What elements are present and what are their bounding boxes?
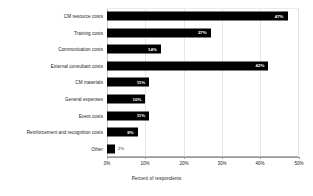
bar-chart: CM resource costs 47% Training costs 27%… — [0, 0, 313, 196]
bar-wrapper: 47% — [107, 12, 288, 21]
bar-row: Reinforcement and recognition costs 8% — [0, 124, 313, 141]
bar-value-label: 10% — [133, 97, 142, 102]
category-label: Event costs — [79, 113, 103, 118]
bar-value-label: 11% — [137, 80, 146, 85]
bar-value-label: 27% — [198, 30, 207, 35]
bar: 11% — [107, 78, 149, 87]
bar-value-label: 11% — [137, 113, 146, 118]
category-label: General expenses — [65, 97, 103, 102]
bar-wrapper: 14% — [107, 45, 161, 54]
bar-wrapper: 42% — [107, 61, 268, 70]
category-label: External consultant costs — [51, 63, 103, 68]
bar: 27% — [107, 28, 211, 37]
bar: 14% — [107, 45, 161, 54]
bar-rows: CM resource costs 47% Training costs 27%… — [0, 8, 313, 157]
x-axis-title: Percent of respondents — [0, 176, 313, 181]
x-tick-mark — [145, 157, 146, 159]
category-label: CM materials — [75, 80, 103, 85]
category-label: Communication costs — [58, 47, 103, 52]
bar: 10% — [107, 95, 145, 104]
bar-row: Training costs 27% — [0, 25, 313, 42]
x-tick-mark — [222, 157, 223, 159]
bar-row: Communication costs 14% — [0, 41, 313, 58]
x-tick-label: 50% — [294, 161, 303, 166]
bar-value-label: 42% — [256, 63, 265, 68]
bar-wrapper: 2% — [107, 144, 115, 153]
x-tick-mark — [260, 157, 261, 159]
bar-wrapper: 8% — [107, 128, 138, 137]
x-tick-mark — [299, 157, 300, 159]
category-label: Other — [91, 146, 103, 151]
bar-wrapper: 10% — [107, 95, 145, 104]
bar: 42% — [107, 61, 268, 70]
bar-wrapper: 11% — [107, 111, 149, 120]
bar-value-label: 2% — [118, 146, 124, 151]
x-tick-label: 40% — [255, 161, 264, 166]
x-tick-label: 20% — [179, 161, 188, 166]
bar-row: Other 2% — [0, 140, 313, 157]
x-tick-label: 30% — [217, 161, 226, 166]
x-axis-line — [107, 157, 299, 158]
bar-value-label: 47% — [275, 14, 284, 19]
bar-row: External consultant costs 42% — [0, 58, 313, 75]
bar: 11% — [107, 111, 149, 120]
category-label: Training costs — [74, 30, 103, 35]
bar-value-label: 8% — [127, 130, 133, 135]
x-tick-label: 0% — [104, 161, 111, 166]
x-tick-mark — [107, 157, 108, 159]
x-tick-mark — [184, 157, 185, 159]
category-label: Reinforcement and recognition costs — [27, 130, 103, 135]
bar-row: General expenses 10% — [0, 91, 313, 108]
bar-value-label: 14% — [148, 47, 157, 52]
x-tick-label: 10% — [140, 161, 149, 166]
bar-row: CM materials 11% — [0, 74, 313, 91]
bar-wrapper: 27% — [107, 28, 211, 37]
bar-wrapper: 11% — [107, 78, 149, 87]
bar: 47% — [107, 12, 288, 21]
bar: 8% — [107, 128, 138, 137]
bar-row: Event costs 11% — [0, 107, 313, 124]
category-label: CM resource costs — [64, 14, 103, 19]
bar: 2% — [107, 144, 115, 153]
bar-row: CM resource costs 47% — [0, 8, 313, 25]
